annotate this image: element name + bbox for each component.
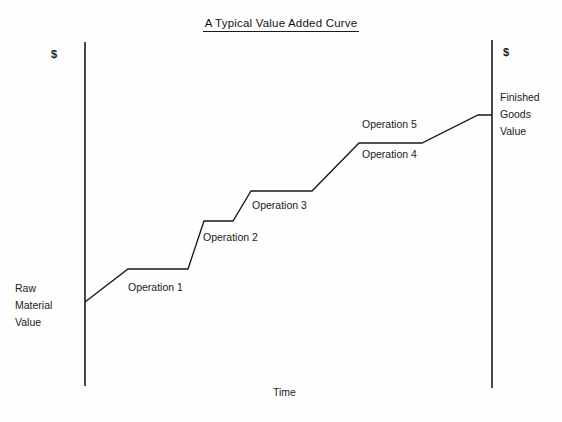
- y-axis-right-symbol: $: [503, 46, 509, 58]
- operation-3-label: Operation 3: [252, 198, 307, 213]
- y-axis-left-symbol: $: [51, 48, 57, 60]
- raw-material-value-line-3: Value: [15, 314, 52, 331]
- finished-goods-value-label: Finished Goods Value: [500, 89, 540, 140]
- finished-goods-value-line-3: Value: [500, 123, 540, 140]
- raw-material-value-line-2: Material: [15, 297, 52, 314]
- operation-5-label: Operation 5: [362, 117, 417, 132]
- x-axis-label: Time: [273, 386, 296, 398]
- raw-material-value-line-1: Raw: [15, 280, 52, 297]
- value-added-curve-figure: A Typical Value Added Curve $ $ Raw Mate…: [0, 0, 562, 422]
- operation-4-label: Operation 4: [362, 147, 417, 162]
- finished-goods-value-line-2: Goods: [500, 106, 540, 123]
- operation-2-label: Operation 2: [203, 230, 258, 245]
- operation-1-label: Operation 1: [128, 280, 183, 295]
- finished-goods-value-line-1: Finished: [500, 89, 540, 106]
- raw-material-value-label: Raw Material Value: [15, 280, 52, 331]
